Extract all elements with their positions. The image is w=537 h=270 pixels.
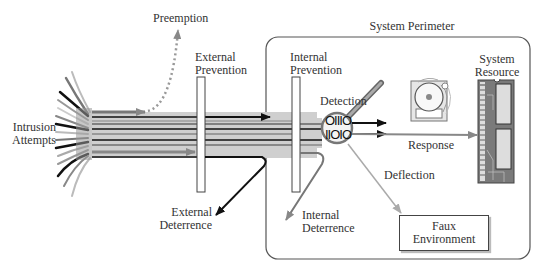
external-prevention-label: External Prevention [195, 51, 247, 77]
external-deterrence-label: External Deterrence [150, 206, 212, 232]
internal-prevention-label: Internal Prevention [290, 51, 342, 77]
intrusion-attempts-label: Intrusion Attempts [4, 121, 56, 147]
preemption-label: Preemption [153, 12, 208, 25]
deflection-label: Deflection [384, 169, 435, 182]
alarm-bell-icon [411, 78, 451, 121]
response-arrow [352, 134, 477, 135]
system-resource-label: System Resource [472, 53, 522, 79]
external-prevention-barrier [197, 77, 205, 192]
internal-prevention-barrier [292, 77, 300, 192]
binary-line-1: OIIIO [325, 114, 351, 127]
faux-environment-label: Faux Environment [413, 220, 476, 246]
response-label: Response [408, 139, 454, 152]
intrusion-attempts-fan [56, 72, 92, 196]
external-deterrence-arrow [205, 157, 266, 215]
preemption-arrow [148, 30, 178, 111]
internal-deterrence-label: Internal Deterrence [302, 209, 355, 235]
intrusion-stream [92, 112, 322, 158]
detection-label: Detection [320, 95, 367, 108]
system-resource-chip-icon [478, 79, 514, 183]
binary-line-2: IIOIO [325, 128, 351, 141]
faux-environment-box: Faux Environment [399, 215, 489, 251]
system-perimeter-label: System Perimeter [352, 20, 472, 33]
